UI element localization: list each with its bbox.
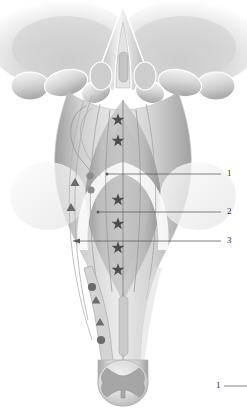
label-1: 1 [227,169,232,178]
figure-canvas: 1 2 3 1 [0,0,247,412]
leader-tip-dot-2 [97,211,100,214]
paraflocculus-left [90,62,112,90]
circle-marker [88,283,96,291]
tonsil-right-lateral [197,72,235,100]
paraflocculus-right [134,62,156,90]
label-2: 2 [227,207,232,216]
central-canal-strip [119,296,128,356]
label-3: 3 [227,236,232,245]
peduncle-right-overlay [160,162,236,230]
vermis-central-nodule [119,52,128,82]
anatomical-diagram [0,0,247,412]
tonsil-left-lateral [11,72,49,100]
label-1-bottom: 1 [216,381,221,390]
circle-marker [86,172,93,179]
circle-marker [87,186,94,193]
spinal-cord-group [98,360,148,406]
leader-tip-dot-1 [106,173,109,176]
circle-marker [97,336,105,344]
